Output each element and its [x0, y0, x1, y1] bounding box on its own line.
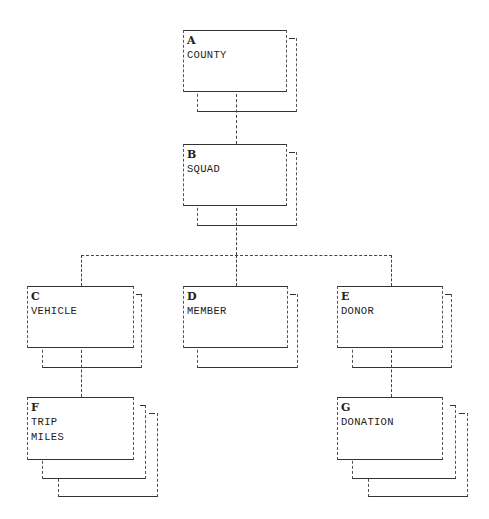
connector-b-e — [391, 255, 392, 286]
connector-b-c — [81, 255, 82, 286]
node-label: E DONOR — [341, 289, 374, 319]
node-name: VEHICLE — [31, 304, 77, 319]
connector-a-b — [236, 94, 237, 144]
node-name: DONATION — [341, 415, 394, 430]
connector-b-trunk — [236, 208, 237, 255]
node-name: MEMBER — [187, 304, 227, 319]
layer-tick — [289, 38, 295, 39]
node-letter: E — [341, 289, 374, 304]
node-name: COUNTY — [187, 48, 227, 63]
connector-e-g — [391, 350, 392, 397]
layer-tick — [445, 294, 451, 295]
node-label: G DONATION — [341, 400, 394, 430]
connector-c-f — [81, 350, 82, 397]
layer-tick — [289, 152, 295, 153]
node-letter: B — [187, 147, 220, 162]
node-name: DONOR — [341, 304, 374, 319]
layer-tick — [136, 294, 142, 295]
node-letter: A — [187, 33, 227, 48]
node-letter: C — [31, 289, 77, 304]
node-name: TRIP MILES — [31, 415, 64, 445]
node-letter: G — [341, 400, 394, 415]
node-label: F TRIP MILES — [31, 400, 64, 445]
node-name: SQUAD — [187, 162, 220, 177]
layer-tick — [290, 294, 296, 295]
node-label: B SQUAD — [187, 147, 220, 177]
node-letter: D — [187, 289, 227, 304]
node-label: C VEHICLE — [31, 289, 77, 319]
layer-tick-1 — [450, 405, 456, 406]
node-letter: F — [31, 400, 64, 415]
node-label: D MEMBER — [187, 289, 227, 319]
layer-tick-2 — [149, 413, 155, 414]
layer-tick-1 — [140, 405, 146, 406]
connector-b-d — [236, 255, 237, 286]
layer-tick-2 — [459, 413, 465, 414]
hierarchy-diagram: A COUNTY B SQUAD C VEHICLE D — [0, 0, 489, 519]
node-label: A COUNTY — [187, 33, 227, 63]
